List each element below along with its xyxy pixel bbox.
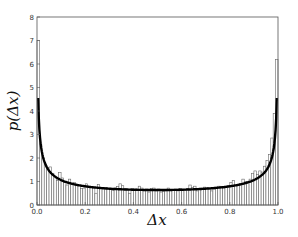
x-tick-label: 0.8: [224, 208, 235, 216]
histogram-bar: [247, 182, 249, 206]
histogram-bar: [223, 188, 225, 205]
histogram-bar: [244, 182, 246, 206]
histogram-bar: [44, 164, 46, 205]
histogram-bar: [206, 188, 208, 205]
x-axis-label: Δx: [146, 211, 167, 229]
histogram-bar: [83, 188, 85, 205]
histogram-bar: [88, 187, 90, 205]
histogram-bar: [54, 177, 56, 205]
histogram-bar: [155, 191, 157, 205]
histogram-bar: [131, 189, 133, 205]
y-tick-label: 4: [30, 108, 35, 116]
histogram-bar: [198, 189, 200, 205]
histogram-bar: [80, 189, 82, 205]
histogram-bar: [237, 186, 239, 205]
histogram-bar: [102, 189, 104, 205]
histogram-bar: [119, 184, 121, 205]
y-tick-label: 3: [30, 131, 34, 139]
plot-frame: [37, 17, 278, 205]
histogram-bar: [227, 186, 229, 205]
histogram-bar: [73, 183, 75, 205]
histogram-bars: [37, 41, 278, 206]
histogram-bar: [145, 189, 147, 205]
x-tick-label: 0.4: [128, 208, 140, 216]
histogram-bar: [129, 193, 131, 205]
histogram-bar: [160, 192, 162, 205]
histogram-bar: [235, 185, 237, 205]
histogram-bar: [114, 188, 116, 205]
histogram-bar: [126, 189, 128, 205]
histogram-bar: [189, 185, 191, 205]
histogram-bar: [136, 189, 138, 205]
histogram-bar: [165, 191, 167, 205]
histogram-bar: [184, 190, 186, 205]
histogram-bar: [196, 191, 198, 205]
histogram-bar: [239, 183, 241, 205]
histogram-bar: [47, 167, 49, 205]
histogram-bar: [220, 187, 222, 205]
y-tick-label: 5: [30, 84, 34, 92]
histogram-bar: [78, 186, 80, 205]
histogram-bar: [177, 191, 179, 205]
histogram-bar: [42, 158, 44, 205]
histogram-bar: [186, 189, 188, 205]
histogram-bar: [71, 184, 73, 205]
histogram-bar: [100, 188, 102, 205]
x-tick-label: 1.0: [272, 208, 283, 216]
histogram-bar: [107, 189, 109, 205]
y-axis-label: p(Δx): [4, 91, 22, 132]
histogram-bar: [232, 180, 234, 205]
histogram-bar: [133, 190, 135, 205]
histogram-bar: [148, 192, 150, 205]
histogram-bar: [215, 187, 217, 205]
histogram-bar: [51, 173, 53, 205]
histogram-chart: 012345678 0.00.20.40.60.81.0 Δx p(Δx): [0, 0, 298, 237]
histogram-bar: [56, 180, 58, 205]
histogram-bar: [251, 173, 253, 205]
histogram-bar: [59, 173, 61, 205]
histogram-bar: [66, 185, 68, 205]
histogram-bar: [218, 186, 220, 205]
x-tick-label: 0.2: [80, 208, 91, 216]
histogram-bar: [174, 189, 176, 205]
histogram-bar: [112, 190, 114, 205]
y-tick-label: 1: [30, 178, 34, 186]
histogram-bar: [254, 171, 256, 205]
histogram-bar: [182, 189, 184, 205]
histogram-bar: [143, 190, 145, 205]
histogram-bar: [92, 188, 94, 205]
histogram-bar: [179, 189, 181, 205]
histogram-bar: [170, 190, 172, 205]
fit-curve: [37, 99, 278, 190]
y-tick-label: 8: [30, 14, 34, 22]
histogram-bar: [76, 185, 78, 205]
histogram-bar: [104, 187, 106, 205]
histogram-bar: [208, 189, 210, 205]
histogram-bar: [172, 190, 174, 205]
histogram-bar: [158, 189, 160, 205]
histogram-bar: [211, 191, 213, 205]
y-tick-label: 7: [30, 37, 34, 45]
histogram-bar: [162, 191, 164, 205]
histogram-bar: [95, 193, 97, 205]
histogram-bar: [225, 187, 227, 205]
x-tick-label: 0.0: [31, 208, 42, 216]
y-tick-label: 2: [30, 155, 34, 163]
x-tick-label: 0.6: [176, 208, 188, 216]
histogram-bar: [90, 187, 92, 205]
histogram-bar: [213, 189, 215, 205]
y-tick-label: 6: [30, 61, 35, 69]
histogram-bar: [124, 189, 126, 205]
histogram-bar: [109, 189, 111, 205]
histogram-bar: [64, 183, 66, 205]
histogram-bar: [201, 188, 203, 205]
histogram-bar: [261, 172, 263, 205]
